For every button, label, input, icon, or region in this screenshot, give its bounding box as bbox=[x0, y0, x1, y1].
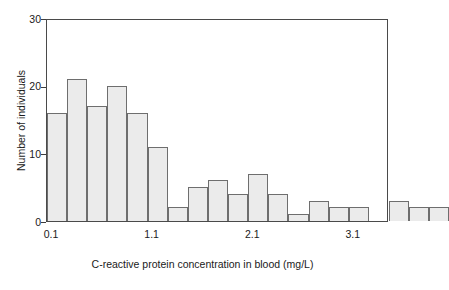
y-axis-tick-labels: 0102030 bbox=[16, 0, 41, 290]
histogram-bar bbox=[67, 79, 87, 221]
histogram-bar bbox=[188, 187, 208, 221]
histogram-bar bbox=[248, 174, 268, 221]
histogram-bar bbox=[47, 113, 67, 221]
histogram-bar bbox=[228, 194, 248, 221]
x-axis-tick-label: 3.1 bbox=[333, 228, 373, 241]
x-axis-tick-labels: 0.11.12.13.1 bbox=[46, 228, 388, 244]
x-axis-tick-label: 2.1 bbox=[232, 228, 272, 241]
y-axis-tick-label: 0 bbox=[19, 217, 41, 227]
histogram-bar bbox=[309, 201, 329, 221]
plot-area bbox=[46, 19, 388, 222]
y-axis-tick-label: 30 bbox=[19, 14, 41, 24]
histogram-bar bbox=[127, 113, 147, 221]
histogram-bar bbox=[288, 214, 308, 221]
y-axis-tick-label: 20 bbox=[19, 81, 41, 91]
bars-container bbox=[47, 20, 387, 221]
y-axis-tick-mark bbox=[41, 222, 46, 223]
x-axis-title: C-reactive protein concentration in bloo… bbox=[0, 258, 405, 271]
histogram-bar bbox=[107, 86, 127, 221]
histogram-bar bbox=[208, 180, 228, 221]
histogram-bar bbox=[87, 106, 107, 221]
histogram-bar bbox=[409, 207, 429, 221]
y-axis-tick-label: 10 bbox=[19, 149, 41, 159]
histogram-bar bbox=[148, 147, 168, 221]
x-axis-tick-label: 0.1 bbox=[31, 228, 71, 241]
histogram-bar bbox=[429, 207, 449, 221]
histogram-bar bbox=[268, 194, 288, 221]
histogram-bar bbox=[329, 207, 349, 221]
histogram-bar bbox=[349, 207, 369, 221]
x-axis-tick-label: 1.1 bbox=[132, 228, 172, 241]
histogram-bar bbox=[389, 201, 409, 221]
histogram-bar bbox=[168, 207, 188, 221]
